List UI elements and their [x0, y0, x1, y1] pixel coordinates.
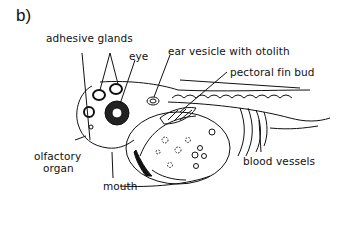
blood-vessels — [238, 108, 267, 156]
body-outline — [77, 80, 330, 187]
label-ear-vesicle: ear vesicle with otolith — [168, 46, 290, 57]
label-pectoral-fin-bud: pectoral fin bud — [230, 67, 315, 78]
eye — [105, 101, 129, 125]
label-blood-vessels: blood vessels — [243, 156, 315, 167]
label-mouth: mouth — [103, 181, 138, 192]
pectoral-fin-bud — [160, 107, 196, 124]
ear-vesicle — [147, 97, 159, 105]
label-olfactory-organ-line1: olfactory — [34, 151, 81, 162]
olfactory-organ — [89, 125, 93, 129]
label-eye: eye — [129, 51, 148, 62]
label-olfactory-organ-line2: organ — [43, 163, 74, 174]
label-adhesive-glands: adhesive glands — [46, 33, 133, 44]
heart-region — [134, 150, 152, 176]
yolk-sac — [126, 112, 230, 184]
